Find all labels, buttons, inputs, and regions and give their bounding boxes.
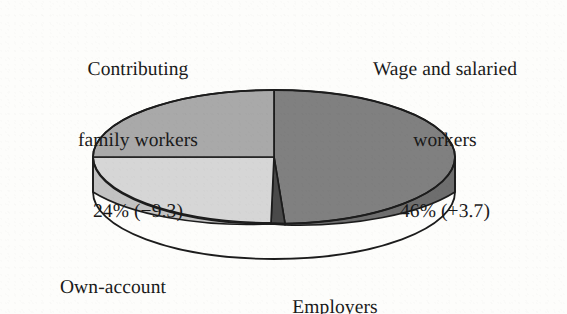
label-line-1: Contributing — [18, 58, 258, 82]
label-line-1: Own-account — [8, 276, 218, 300]
label-value: 24% (−9.3) — [18, 200, 258, 224]
pie-chart-figure: Contributing family workers 24% (−9.3) W… — [0, 0, 567, 314]
label-line-1: Wage and salaried — [330, 58, 560, 82]
label-value: 46% (+3.7) — [330, 200, 560, 224]
label-own-account-workers: Own-account workers 28% (+5.4) — [8, 228, 218, 314]
label-line-2: family workers — [18, 129, 258, 153]
label-wage-and-salaried-workers: Wage and salaried workers 46% (+3.7) — [330, 10, 560, 272]
label-line-1: Employers — [240, 296, 430, 314]
label-employers: Employers 2% (+0.3) — [240, 248, 430, 314]
label-line-2: workers — [330, 129, 560, 153]
